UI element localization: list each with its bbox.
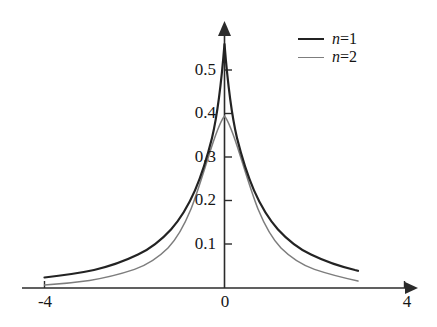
y-tick-label-0.1: 0.1 xyxy=(178,235,216,252)
legend-eq-n1: =1 xyxy=(340,30,357,47)
y-tick-label-0.5: 0.5 xyxy=(178,61,216,78)
legend-entry-n1: n=1 xyxy=(298,30,418,48)
y-axis-arrow-icon xyxy=(218,21,231,36)
x-tick-label-4: 4 xyxy=(392,293,422,310)
legend-var-n2: n xyxy=(332,48,340,65)
chart-legend: n=1 n=2 xyxy=(298,30,418,66)
legend-swatch-n1-icon xyxy=(298,38,324,40)
legend-label-n1: n=1 xyxy=(332,30,357,48)
legend-entry-n2: n=2 xyxy=(298,48,418,66)
legend-var-n1: n xyxy=(332,30,340,47)
y-tick-label-0.2: 0.2 xyxy=(178,191,216,208)
x-tick-label-0: 0 xyxy=(210,293,240,310)
x-tick-label-minus4: -4 xyxy=(30,293,60,310)
legend-eq-n2: =2 xyxy=(340,48,357,65)
legend-swatch-n2-icon xyxy=(298,57,324,58)
y-tick-label-0.4: 0.4 xyxy=(178,104,216,121)
legend-label-n2: n=2 xyxy=(332,48,357,66)
chart-figure: 0.5 0.4 0.3 0.2 0.1 -4 0 4 n=1 n=2 xyxy=(0,0,437,327)
y-tick-label-0.3: 0.3 xyxy=(178,148,216,165)
